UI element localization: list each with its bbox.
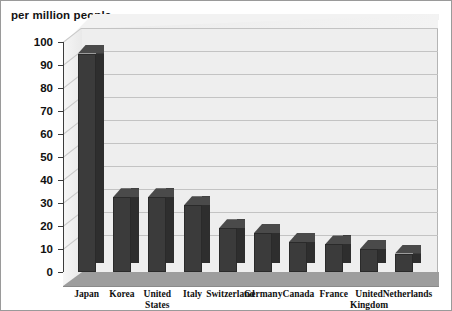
- bar-column: [113, 188, 131, 272]
- bar-top-face: [148, 188, 174, 197]
- gridline: [81, 166, 438, 167]
- y-axis-line: [63, 42, 64, 272]
- y-axis-tick-mark: [58, 226, 63, 227]
- gridline: [81, 74, 438, 75]
- y-axis-tick-label: 50: [9, 151, 53, 163]
- y-axis-tick-label: 40: [9, 174, 53, 186]
- bar-top-face: [219, 219, 245, 228]
- y-axis-tick-mark: [58, 42, 63, 43]
- bar-front-face: [219, 228, 237, 272]
- bar-top-face: [254, 224, 280, 233]
- y-axis-tick-mark: [58, 203, 63, 204]
- x-axis-label: Netherlands: [383, 289, 426, 300]
- bar-column: [325, 235, 343, 272]
- y-axis-tick-label: 70: [9, 105, 53, 117]
- gridline: [81, 28, 438, 29]
- bar-front-face: [289, 242, 307, 272]
- bar-column: [78, 45, 96, 273]
- bar-front-face: [148, 197, 166, 272]
- y-axis-tick-label: 20: [9, 220, 53, 232]
- y-axis-tick-label: 0: [9, 266, 53, 278]
- gridline: [81, 97, 438, 98]
- y-axis-tick-mark: [58, 111, 63, 112]
- y-axis-tick-label: 90: [9, 59, 53, 71]
- y-axis-tick-label: 10: [9, 243, 53, 255]
- y-axis-tick-mark: [58, 180, 63, 181]
- y-axis-tick-mark: [58, 65, 63, 66]
- bar-top-face: [289, 233, 315, 242]
- bar-column: [254, 224, 272, 272]
- gridline: [81, 120, 438, 121]
- bar-front-face: [254, 233, 272, 272]
- bar-top-face: [325, 235, 351, 244]
- bar-side-face: [96, 45, 104, 264]
- y-axis-tick-label: 100: [9, 36, 53, 48]
- bar-front-face: [395, 254, 413, 272]
- y-axis-tick-mark: [58, 272, 63, 273]
- bar-top-face: [113, 188, 139, 197]
- plot-area: 0102030405060708090100 JapanKoreaUnited …: [1, 1, 452, 311]
- bar-chart: per million people 010203040506070809010…: [0, 0, 452, 311]
- bar-column: [184, 196, 202, 272]
- bar-front-face: [325, 244, 343, 272]
- gridline: [81, 143, 438, 144]
- bar-column: [360, 240, 378, 272]
- bar-front-face: [184, 205, 202, 272]
- bar-column: [219, 219, 237, 272]
- bar-top-face: [78, 45, 104, 54]
- bar-top-face: [184, 196, 210, 205]
- gridline: [81, 51, 438, 52]
- y-axis-tick-label: 80: [9, 82, 53, 94]
- bar-front-face: [78, 54, 96, 273]
- y-axis-tick-label: 60: [9, 128, 53, 140]
- bar-column: [395, 245, 413, 272]
- y-axis-tick-mark: [58, 88, 63, 89]
- bar-side-face: [131, 188, 139, 263]
- y-axis-tick-mark: [58, 249, 63, 250]
- bar-side-face: [166, 188, 174, 263]
- bar-front-face: [360, 249, 378, 272]
- y-axis-tick-mark: [58, 157, 63, 158]
- bar-side-face: [202, 196, 210, 263]
- bar-top-face: [395, 245, 421, 254]
- y-axis-tick-label: 30: [9, 197, 53, 209]
- bar-top-face: [360, 240, 386, 249]
- bar-column: [148, 188, 166, 272]
- bar-front-face: [113, 197, 131, 272]
- bar-column: [289, 233, 307, 272]
- y-axis-tick-mark: [58, 134, 63, 135]
